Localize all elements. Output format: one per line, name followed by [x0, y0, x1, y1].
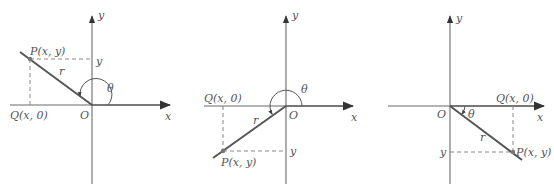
angle-label: θ [468, 108, 475, 121]
origin-label: O [80, 109, 89, 122]
point-label: P(x, y) [220, 156, 256, 169]
angle-label: θ [107, 82, 114, 95]
y-axis-label: y [291, 9, 299, 22]
diagram-quadrant-4: y x O P(x, y) Q(x, 0) y r θ [388, 12, 551, 184]
origin-label: O [289, 109, 298, 122]
projection-label: Q(x, 0) [204, 92, 242, 105]
radius-label: r [253, 114, 259, 127]
diagram-quadrant-2: y x O P(x, y) Q(x, 0) y r θ [10, 9, 172, 184]
radius-label: r [480, 131, 486, 144]
y-axis-label: y [455, 12, 463, 25]
projection-label: Q(x, 0) [10, 109, 48, 122]
polar-coordinate-figure: y x O P(x, y) Q(x, 0) y r θ y x O P(x, y… [0, 0, 554, 192]
y-tick-label: y [439, 146, 447, 159]
x-axis-label: x [165, 110, 172, 123]
origin-label: O [437, 108, 446, 121]
y-axis-label: y [97, 9, 105, 22]
point-p [511, 150, 515, 154]
angle-arc [462, 106, 465, 114]
point-label: P(x, y) [515, 146, 551, 159]
x-axis-label: x [537, 111, 544, 124]
diagram-quadrant-3: y x O P(x, y) Q(x, 0) y r θ [204, 9, 358, 184]
angle-label: θ [301, 83, 308, 96]
y-tick-label: y [95, 55, 103, 68]
radius-label: r [59, 65, 65, 78]
x-axis-label: x [351, 111, 358, 124]
projection-label: Q(x, 0) [496, 92, 534, 105]
point-p [221, 149, 225, 153]
y-tick-label: y [289, 145, 297, 158]
point-label: P(x, y) [29, 45, 65, 58]
